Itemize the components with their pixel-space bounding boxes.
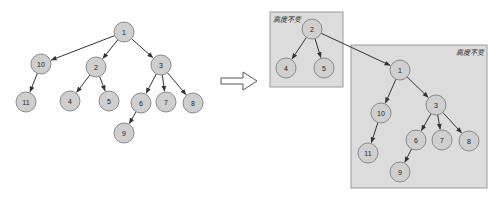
right-node-10: 10 <box>371 103 391 123</box>
node-label: 2 <box>94 64 98 71</box>
node-label: 8 <box>467 138 471 145</box>
subtree-boxes: 高度不变高度不变 <box>270 12 487 188</box>
right-node-4: 4 <box>276 58 296 78</box>
right-node-5: 5 <box>314 58 334 78</box>
node-label: 11 <box>22 99 29 106</box>
right-node-2: 2 <box>302 19 322 39</box>
node-label: 8 <box>191 100 195 107</box>
left-node-3: 3 <box>151 55 171 75</box>
left-node-10: 10 <box>31 54 51 74</box>
left-node-1: 1 <box>114 22 134 42</box>
node-label: 5 <box>107 98 111 105</box>
right-node-9: 9 <box>390 162 410 182</box>
right-node-3: 3 <box>426 95 446 115</box>
right-node-6: 6 <box>406 130 426 150</box>
node-label: 1 <box>398 67 402 74</box>
node-label: 9 <box>398 169 402 176</box>
node-label: 2 <box>310 26 314 33</box>
node-label: 4 <box>68 98 72 105</box>
left-tree: 1102311456789 <box>16 22 203 143</box>
node-label: 4 <box>284 65 288 72</box>
right-node-7: 7 <box>432 130 452 150</box>
left-edge-3-6 <box>146 74 156 93</box>
left-edge-1-2 <box>103 40 118 59</box>
node-label: 7 <box>164 99 168 106</box>
left-edge-10-11 <box>30 73 37 91</box>
right-node-11: 11 <box>358 143 378 163</box>
left-edge-3-7 <box>162 75 164 91</box>
right-arrow-icon <box>221 72 257 90</box>
node-label: 3 <box>159 62 163 69</box>
left-edge-1-3 <box>131 39 152 58</box>
node-label: 9 <box>122 130 126 137</box>
left-edge-2-5 <box>100 76 106 90</box>
left-node-8: 8 <box>183 93 203 113</box>
left-node-9: 9 <box>114 123 134 143</box>
height-unchanged-label: 高度不变 <box>273 16 302 24</box>
node-label: 10 <box>377 110 385 117</box>
right-node-8: 8 <box>459 131 479 151</box>
node-label: 1 <box>122 29 126 36</box>
height-unchanged-label: 高度不变 <box>456 49 485 57</box>
right-node-1: 1 <box>390 60 410 80</box>
node-label: 7 <box>440 137 444 144</box>
node-label: 6 <box>414 137 418 144</box>
tree-rotation-diagram: 高度不变高度不变 1102311456789 2451103116789 <box>0 0 499 199</box>
left-edge-6-9 <box>129 112 136 124</box>
left-node-4: 4 <box>60 91 80 111</box>
node-label: 5 <box>322 65 326 72</box>
left-edge-3-8 <box>167 73 185 95</box>
node-label: 11 <box>364 150 371 157</box>
left-node-7: 7 <box>156 92 176 112</box>
left-node-2: 2 <box>86 57 106 77</box>
left-node-6: 6 <box>131 93 151 113</box>
node-label: 3 <box>434 102 438 109</box>
node-label: 10 <box>37 61 45 68</box>
left-edge-1-10 <box>51 36 114 60</box>
left-node-11: 11 <box>16 92 36 112</box>
left-node-5: 5 <box>99 91 119 111</box>
node-label: 6 <box>139 100 143 107</box>
left-edge-2-4 <box>77 75 90 92</box>
